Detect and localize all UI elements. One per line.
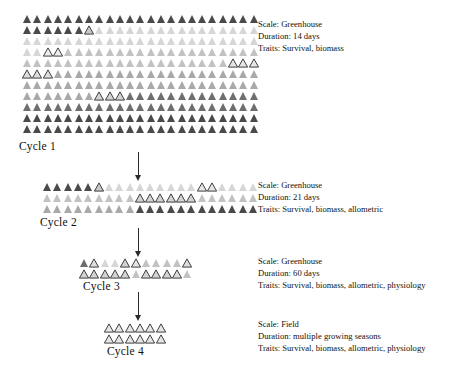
triangle-filled (84, 46, 94, 57)
triangle-filled (53, 13, 63, 24)
triangle-filled (146, 57, 156, 68)
triangle-filled (135, 13, 145, 24)
triangle-outlined (114, 322, 124, 333)
triangle-filled (135, 68, 145, 79)
triangle-filled (83, 203, 93, 214)
triangle-filled (146, 112, 156, 123)
triangle-filled (228, 24, 238, 35)
triangle-filled (218, 112, 228, 123)
triangle-filled (218, 68, 228, 79)
triangle-filled (22, 46, 32, 57)
triangle-filled (22, 57, 32, 68)
triangle-filled (104, 79, 114, 90)
triangle-filled (207, 24, 217, 35)
triangle-filled (166, 90, 176, 101)
triangle-outlined (104, 90, 114, 101)
triangle-filled (146, 35, 156, 46)
triangle-filled (146, 46, 156, 57)
triangle-filled (197, 57, 207, 68)
triangle-filled (63, 46, 73, 57)
triangle-outlined (115, 90, 125, 101)
triangle-filled (146, 24, 156, 35)
triangle-filled (73, 203, 83, 214)
triangle-filled (94, 101, 104, 112)
triangle-filled (73, 192, 83, 203)
triangle-filled (124, 192, 134, 203)
triangle-filled (43, 123, 53, 134)
triangle-grid (79, 257, 192, 279)
triangle-filled (166, 112, 176, 123)
triangle-outlined (141, 268, 151, 279)
cycle-3-label: Cycle 3 (83, 280, 120, 292)
cycle-1-traits: Traits: Survival, biomass (258, 42, 344, 54)
triangle-filled (228, 35, 238, 46)
triangle-filled (22, 79, 32, 90)
triangle-row (104, 333, 166, 344)
triangle-filled (32, 24, 42, 35)
cycle-1-scale: Scale: Greenhouse (258, 18, 344, 30)
triangle-filled (104, 68, 114, 79)
triangle-filled (217, 181, 227, 192)
triangle-filled (104, 24, 114, 35)
triangle-filled (63, 68, 73, 79)
triangle-filled (249, 101, 259, 112)
triangle-outlined (186, 192, 196, 203)
triangle-outlined (84, 24, 94, 35)
triangle-filled (228, 46, 238, 57)
arrow-cycle1-to-cycle2 (134, 152, 143, 182)
triangle-filled (182, 268, 192, 279)
triangle-filled (104, 112, 114, 123)
triangle-filled (42, 192, 52, 203)
triangle-filled (63, 203, 73, 214)
triangle-filled (94, 35, 104, 46)
triangle-filled (114, 203, 124, 214)
triangle-filled (115, 57, 125, 68)
triangle-outlined (176, 192, 186, 203)
triangle-filled (135, 101, 145, 112)
triangle-filled (166, 123, 176, 134)
triangle-filled (32, 112, 42, 123)
triangle-filled (115, 46, 125, 57)
triangle-row (104, 322, 166, 333)
triangle-filled (94, 79, 104, 90)
triangle-filled (238, 192, 248, 203)
triangle-filled (156, 68, 166, 79)
triangle-filled (166, 181, 176, 192)
triangle-filled (197, 46, 207, 57)
triangle-filled (22, 35, 32, 46)
triangle-row (22, 35, 259, 46)
triangle-filled (228, 13, 238, 24)
triangle-filled (32, 79, 42, 90)
triangle-outlined (22, 68, 32, 79)
triangle-row (22, 90, 259, 101)
triangle-filled (53, 35, 63, 46)
triangle-outlined (89, 257, 99, 268)
cycle-4-scale: Scale: Field (258, 318, 426, 330)
triangle-filled (238, 90, 248, 101)
triangle-filled (43, 24, 53, 35)
triangle-filled (166, 13, 176, 24)
triangle-filled (84, 90, 94, 101)
triangle-filled (73, 90, 83, 101)
cycle-1-info: Scale: Greenhouse Duration: 14 days Trai… (258, 18, 344, 55)
triangle-outlined (182, 257, 192, 268)
triangle-filled (156, 24, 166, 35)
triangle-filled (52, 192, 62, 203)
triangle-outlined (145, 322, 155, 333)
triangle-row (22, 79, 259, 90)
cycle-4-label: Cycle 4 (107, 345, 144, 357)
triangle-filled (176, 181, 186, 192)
triangle-filled (207, 68, 217, 79)
triangle-row (22, 112, 259, 123)
triangle-outlined (104, 322, 114, 333)
triangle-filled (197, 79, 207, 90)
triangle-outlined (43, 46, 53, 57)
triangle-filled (166, 46, 176, 57)
triangle-outlined (135, 333, 145, 344)
triangle-filled (156, 46, 166, 57)
triangle-filled (32, 46, 42, 57)
triangle-filled (135, 181, 145, 192)
triangle-filled (104, 123, 114, 134)
triangle-filled (196, 203, 206, 214)
triangle-filled (53, 90, 63, 101)
